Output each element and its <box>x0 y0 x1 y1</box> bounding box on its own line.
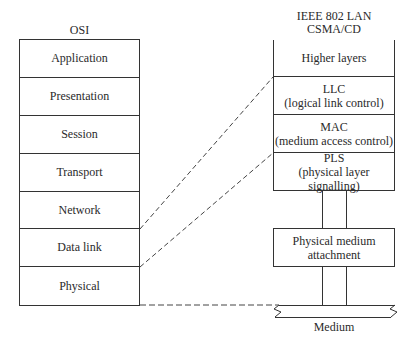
pma-box: Physical medium attachment <box>273 228 395 267</box>
mac-desc: (medium access control) <box>275 134 393 148</box>
mac-box: MAC (medium access control) <box>273 114 395 153</box>
pls-name: PLS <box>324 151 345 165</box>
llc-name: LLC <box>323 82 346 96</box>
llc-desc: (logical link control) <box>284 96 383 110</box>
osi-layer-data-link: Data link <box>20 229 139 267</box>
pls-desc: (physical layer signalling) <box>274 165 394 193</box>
pma-line1: Physical medium <box>293 234 376 248</box>
osi-layer-application: Application <box>20 40 139 78</box>
pma-line2: attachment <box>308 248 361 262</box>
osi-layer-network: Network <box>20 192 139 230</box>
osi-stack: Application Presentation Session Transpo… <box>19 39 140 306</box>
osi-layer-transport: Transport <box>20 154 139 192</box>
osi-layer-physical: Physical <box>20 267 139 305</box>
ieee-title: IEEE 802 LAN CSMA/CD <box>273 10 395 36</box>
mac-name: MAC <box>320 120 347 134</box>
higher-layers: Higher layers <box>273 40 395 76</box>
llc-box: LLC (logical link control) <box>273 76 395 115</box>
medium-label: Medium <box>273 321 395 334</box>
ieee-title-line2: CSMA/CD <box>273 23 395 36</box>
osi-layer-presentation: Presentation <box>20 78 139 116</box>
pls-box: PLS (physical layer signalling) <box>273 152 395 191</box>
osi-title: OSI <box>19 24 140 37</box>
osi-layer-session: Session <box>20 116 139 154</box>
